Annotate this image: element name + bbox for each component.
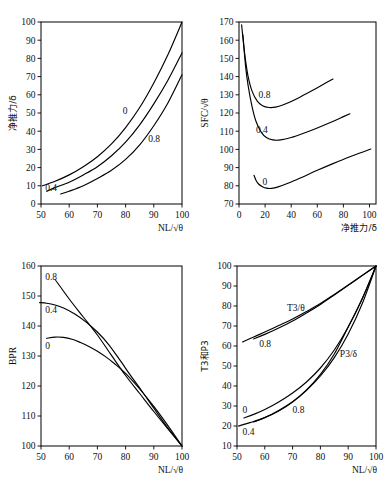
panel-bpr-x-tick-label: 80 bbox=[121, 452, 131, 462]
panel-net-thrust-y-tick-label: 50 bbox=[26, 108, 36, 118]
panel-t3-p3-series-T3-theta-0-8 bbox=[254, 266, 376, 339]
panel-net-thrust-x-tick-label: 100 bbox=[175, 210, 190, 220]
panel-t3-p3-curve-label: P3/δ bbox=[340, 349, 358, 359]
panel-bpr-series-0-4 bbox=[40, 303, 182, 446]
panel-net-thrust-y-tick-label: 100 bbox=[21, 17, 36, 27]
panel-sfc-plot: 7080901001101201301401501601700204060801… bbox=[194, 0, 388, 246]
panel-net-thrust-axes-frame bbox=[41, 22, 182, 204]
panel-t3-p3-y-tick-label: 90 bbox=[222, 281, 232, 291]
panel-sfc-y-tick-label: 150 bbox=[219, 54, 234, 64]
panel-net-thrust-y-tick-label: 60 bbox=[26, 90, 36, 100]
panel-net-thrust-y-tick-label: 70 bbox=[26, 72, 36, 82]
panel-t3-p3-curve-label: 0.4 bbox=[243, 427, 255, 437]
panel-net-thrust-y-tick-label: 40 bbox=[26, 127, 36, 137]
panel-sfc-x-axis-label: 净推力/δ bbox=[341, 222, 377, 233]
chart-panel-net-thrust: 0102030405060708090100506070809010000.40… bbox=[0, 0, 194, 246]
panel-net-thrust-x-tick-label: 50 bbox=[36, 210, 46, 220]
panel-bpr-x-axis-label: NL/√θ bbox=[158, 465, 184, 475]
panel-net-thrust-y-tick-label: 20 bbox=[26, 163, 36, 173]
panel-t3-p3-x-axis-label: NL/√θ bbox=[352, 465, 378, 475]
panel-sfc-x-tick-label: 60 bbox=[313, 210, 323, 220]
panel-sfc-curve-label: 0.8 bbox=[259, 90, 271, 100]
panel-net-thrust-curve-label: 0.4 bbox=[45, 183, 57, 193]
panel-sfc-x-tick-label: 20 bbox=[260, 210, 270, 220]
panel-t3-p3-y-tick-label: 20 bbox=[222, 421, 232, 431]
panel-t3-p3-y-tick-label: 50 bbox=[222, 361, 232, 371]
panel-sfc-x-tick-label: 0 bbox=[237, 210, 242, 220]
panel-sfc-y-tick-label: 90 bbox=[224, 163, 234, 173]
panel-t3-p3-series-T3-theta-0 bbox=[243, 266, 376, 342]
panel-t3-p3-curve-label: 0 bbox=[243, 405, 248, 415]
panel-sfc-series-0 bbox=[254, 149, 371, 188]
panel-t3-p3-y-tick-label: 80 bbox=[222, 301, 232, 311]
panel-bpr-x-tick-label: 70 bbox=[93, 452, 103, 462]
panel-net-thrust-curve-label: 0.8 bbox=[148, 134, 160, 144]
panel-bpr-x-tick-label: 50 bbox=[36, 452, 46, 462]
panel-t3-p3-curve-label: T3/θ bbox=[287, 303, 305, 313]
chart-panel-bpr: 10011012013014015016050607080901000.80.4… bbox=[0, 246, 194, 492]
panel-sfc-curve-label: 0.4 bbox=[256, 125, 268, 135]
panel-t3-p3-x-tick-label: 60 bbox=[260, 452, 270, 462]
panel-sfc-axes-frame bbox=[239, 22, 376, 204]
panel-bpr-x-tick-label: 90 bbox=[149, 452, 159, 462]
panel-t3-p3-x-tick-label: 90 bbox=[343, 452, 353, 462]
panel-net-thrust-x-tick-label: 90 bbox=[149, 210, 159, 220]
panel-bpr-x-tick-label: 100 bbox=[175, 452, 190, 462]
panel-t3-p3-series-P3-delta-0-8 bbox=[254, 266, 376, 422]
panel-net-thrust-series-0-8 bbox=[61, 75, 182, 194]
panel-t3-p3-y-tick-label: 60 bbox=[222, 341, 232, 351]
panel-t3-p3-y-tick-label: 100 bbox=[217, 261, 232, 271]
panel-net-thrust-y-tick-label: 10 bbox=[26, 181, 36, 191]
panel-bpr-y-tick-label: 130 bbox=[21, 351, 36, 361]
panel-net-thrust-curve-label: 0 bbox=[123, 106, 128, 116]
panel-t3-p3-x-tick-label: 80 bbox=[316, 452, 326, 462]
panel-bpr-curve-label: 0.8 bbox=[45, 272, 57, 282]
panel-sfc-y-tick-label: 110 bbox=[220, 127, 234, 137]
panel-sfc-y-tick-label: 140 bbox=[219, 72, 234, 82]
panel-bpr-y-tick-label: 150 bbox=[21, 291, 36, 301]
panel-bpr-y-tick-label: 100 bbox=[21, 441, 36, 451]
panel-bpr-y-tick-label: 120 bbox=[21, 381, 36, 391]
panel-sfc-x-tick-label: 100 bbox=[362, 210, 377, 220]
panel-t3-p3-y-tick-label: 10 bbox=[222, 441, 232, 451]
panel-net-thrust-plot: 0102030405060708090100506070809010000.40… bbox=[0, 0, 194, 246]
panel-bpr-series-0 bbox=[47, 337, 182, 446]
panel-net-thrust-x-tick-label: 60 bbox=[64, 210, 74, 220]
panel-net-thrust-y-tick-label: 30 bbox=[26, 145, 36, 155]
panel-t3-p3-y-tick-label: 30 bbox=[222, 401, 232, 411]
panel-net-thrust-y-axis-label: 净推力/δ bbox=[7, 95, 18, 131]
panel-bpr-plot: 10011012013014015016050607080901000.80.4… bbox=[0, 246, 194, 492]
panel-t3-p3-x-tick-label: 50 bbox=[232, 452, 242, 462]
panel-sfc-y-tick-label: 100 bbox=[219, 145, 234, 155]
panel-net-thrust-series-0-4 bbox=[47, 53, 182, 191]
chart-panel-sfc: 7080901001101201301401501601700204060801… bbox=[194, 0, 388, 246]
panel-sfc-y-tick-label: 160 bbox=[219, 36, 234, 46]
panel-bpr-curve-label: 0.4 bbox=[45, 305, 57, 315]
panel-t3-p3-plot: 1020304050607080901005060708090100T3/θ0.… bbox=[194, 246, 388, 492]
panel-sfc-x-tick-label: 80 bbox=[339, 210, 349, 220]
panel-net-thrust-x-tick-label: 70 bbox=[93, 210, 103, 220]
panel-t3-p3-y-tick-label: 70 bbox=[222, 321, 232, 331]
panel-sfc-y-tick-label: 120 bbox=[219, 108, 234, 118]
panel-sfc-y-tick-label: 130 bbox=[219, 90, 234, 100]
panel-t3-p3-y-axis-label: T3和P3 bbox=[200, 340, 210, 372]
panel-bpr-x-tick-label: 60 bbox=[64, 452, 74, 462]
panel-sfc-y-tick-label: 70 bbox=[224, 199, 234, 209]
panel-sfc-y-tick-label: 170 bbox=[219, 17, 234, 27]
panel-bpr-y-tick-label: 110 bbox=[22, 411, 36, 421]
panel-t3-p3-curve-label: 0.8 bbox=[293, 405, 305, 415]
panel-t3-p3-curve-label: 0.8 bbox=[259, 339, 271, 349]
panel-sfc-x-tick-label: 40 bbox=[286, 210, 296, 220]
panel-sfc-y-axis-label: SFC/√θ bbox=[200, 98, 210, 128]
panel-bpr-y-axis-label: BPR bbox=[8, 346, 18, 365]
panel-sfc-series-0-8 bbox=[242, 25, 333, 108]
panel-t3-p3-y-tick-label: 40 bbox=[222, 381, 232, 391]
figure-grid: 0102030405060708090100506070809010000.40… bbox=[0, 0, 388, 492]
panel-net-thrust-x-tick-label: 80 bbox=[121, 210, 131, 220]
panel-net-thrust-x-axis-label: NL/√θ bbox=[158, 223, 184, 233]
panel-net-thrust-series-0 bbox=[42, 22, 182, 186]
panel-bpr-y-tick-label: 160 bbox=[21, 261, 36, 271]
panel-bpr-y-tick-label: 140 bbox=[21, 321, 36, 331]
panel-sfc-curve-label: 0 bbox=[262, 177, 267, 187]
panel-bpr-curve-label: 0 bbox=[45, 341, 50, 351]
